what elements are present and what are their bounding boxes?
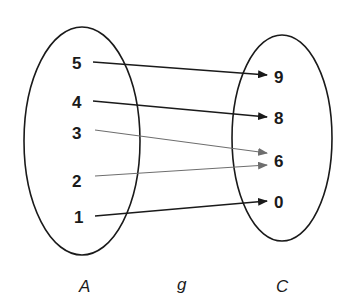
set-a-label: A — [78, 277, 90, 296]
codomain-element-9: 9 — [274, 68, 283, 87]
codomain-element-0: 0 — [274, 193, 283, 212]
arrow-2-to-6 — [95, 165, 267, 176]
arrow-5-to-9 — [93, 62, 267, 75]
arrow-3-to-6 — [95, 130, 267, 153]
codomain-element-6: 6 — [274, 152, 283, 171]
domain-element-1: 1 — [74, 208, 83, 227]
domain-element-2: 2 — [72, 172, 81, 191]
arrow-1-to-0 — [95, 201, 267, 216]
set-c-label: C — [276, 277, 289, 296]
arrow-4-to-8 — [93, 101, 267, 117]
mapping-diagram: 5 4 3 2 1 9 8 6 0 A g C — [0, 0, 343, 307]
domain-element-5: 5 — [72, 54, 81, 73]
codomain-element-8: 8 — [274, 109, 283, 128]
function-label: g — [177, 275, 187, 294]
domain-element-3: 3 — [72, 124, 81, 143]
domain-element-4: 4 — [72, 93, 82, 112]
